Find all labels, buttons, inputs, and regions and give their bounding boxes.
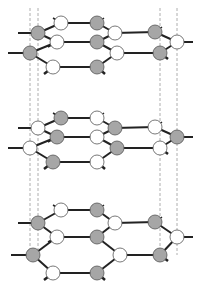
- gray-atom: [31, 216, 45, 230]
- white-atom: [108, 26, 122, 40]
- white-atom: [110, 46, 124, 60]
- white-atom: [113, 248, 127, 262]
- gray-atom: [54, 111, 68, 125]
- white-atom: [148, 120, 162, 134]
- white-atom: [90, 155, 104, 169]
- gray-atom: [153, 248, 167, 262]
- gray-atom: [90, 230, 104, 244]
- gray-atom: [23, 46, 37, 60]
- white-atom: [90, 130, 104, 144]
- gray-atom: [50, 130, 64, 144]
- white-atom: [46, 266, 60, 280]
- diagram-canvas: [0, 0, 208, 295]
- gray-atom: [31, 26, 45, 40]
- white-atom: [54, 16, 68, 30]
- gray-atom: [46, 155, 60, 169]
- gray-atom: [108, 121, 122, 135]
- white-atom: [54, 203, 68, 217]
- white-atom: [170, 35, 184, 49]
- white-atom: [31, 121, 45, 135]
- layered-structure-diagram: [0, 0, 208, 295]
- gray-atom: [90, 60, 104, 74]
- gray-atom: [148, 215, 162, 229]
- white-atom: [50, 230, 64, 244]
- gray-atom: [90, 35, 104, 49]
- gray-atom: [90, 16, 104, 30]
- white-atom: [108, 216, 122, 230]
- gray-atom: [110, 141, 124, 155]
- gray-atom: [170, 130, 184, 144]
- gray-atom: [153, 46, 167, 60]
- gray-atom: [90, 266, 104, 280]
- white-atom: [153, 141, 167, 155]
- white-atom: [46, 60, 60, 74]
- white-atom: [90, 111, 104, 125]
- white-atom: [23, 141, 37, 155]
- white-atom: [170, 230, 184, 244]
- gray-atom: [26, 248, 40, 262]
- gray-atom: [148, 25, 162, 39]
- white-atom: [50, 35, 64, 49]
- gray-atom: [90, 203, 104, 217]
